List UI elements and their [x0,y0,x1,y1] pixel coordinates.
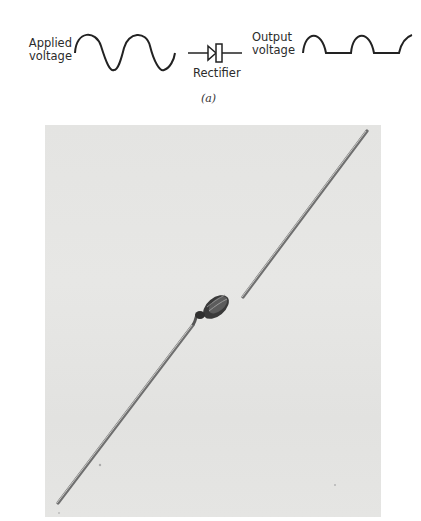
diode-photograph [45,125,381,517]
diode-icon [188,44,242,62]
diode-body-icon [195,290,233,323]
diode-illustration [45,125,381,517]
waveform-diagram [0,0,421,125]
output-rectified-wave-icon [303,35,412,53]
applied-sine-wave-icon [75,35,175,70]
